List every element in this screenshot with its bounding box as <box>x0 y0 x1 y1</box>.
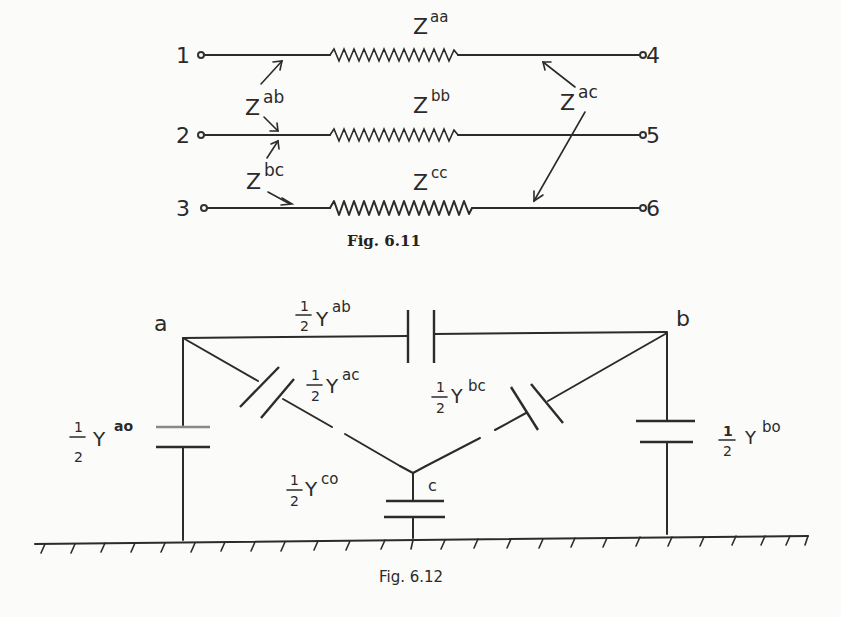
svg-text:bo: bo <box>762 418 781 436</box>
figure-caption: Fig. 6.11 <box>347 232 421 250</box>
resistor-zbb <box>330 129 458 141</box>
svg-text:Y: Y <box>325 374 339 398</box>
label-yco: 1 2 Y co <box>287 470 338 509</box>
svg-text:Z: Z <box>246 169 261 194</box>
svg-text:1: 1 <box>436 379 445 395</box>
svg-text:ab: ab <box>263 87 284 107</box>
svg-text:Y: Y <box>450 385 463 407</box>
capacitor-ao <box>156 338 210 540</box>
diagram-page: 1 2 3 4 5 6 Z aa Z bb Z cc Z ab Z bc Z a… <box>0 0 841 617</box>
terminal-2-label: 2 <box>176 123 190 148</box>
svg-text:2: 2 <box>311 388 320 404</box>
svg-text:Z: Z <box>413 170 428 195</box>
svg-text:1: 1 <box>74 419 83 435</box>
line-1 <box>198 49 646 61</box>
svg-text:Z: Z <box>560 90 575 115</box>
line-2 <box>198 129 646 141</box>
svg-text:Y: Y <box>304 477 318 501</box>
terminal-5-label: 5 <box>646 123 660 148</box>
capacitor-ab <box>183 310 667 363</box>
svg-text:2: 2 <box>74 449 83 465</box>
svg-text:ac: ac <box>342 366 359 384</box>
node-c-label: c <box>428 476 437 495</box>
svg-text:2: 2 <box>436 400 445 416</box>
terminal-1-dot <box>198 52 204 58</box>
svg-text:2: 2 <box>290 493 299 509</box>
label-zaa: Z aa <box>413 8 448 39</box>
figure-6-12: a b c <box>35 298 808 586</box>
label-zac: Z ac <box>560 82 598 115</box>
terminal-3-dot <box>201 205 207 211</box>
svg-text:bc: bc <box>264 160 284 180</box>
svg-text:Y: Y <box>744 427 757 448</box>
capacitor-bo <box>636 333 695 534</box>
svg-text:1: 1 <box>290 472 299 488</box>
label-yac: 1 2 Y ac <box>307 366 359 404</box>
svg-text:ao: ao <box>114 418 133 434</box>
svg-text:cc: cc <box>431 164 448 182</box>
svg-text:bb: bb <box>431 87 450 105</box>
svg-text:2: 2 <box>723 443 732 459</box>
svg-text:2: 2 <box>300 318 309 334</box>
svg-text:Z: Z <box>413 93 428 118</box>
label-zbc: Z bc <box>246 160 284 194</box>
resistor-zaa <box>330 49 458 61</box>
svg-text:co: co <box>321 470 338 488</box>
terminal-6-label: 6 <box>646 196 660 221</box>
line-3 <box>201 201 646 215</box>
svg-text:bc: bc <box>468 377 486 395</box>
terminal-2-dot <box>198 132 204 138</box>
label-ybo: 1 2 Y bo <box>719 418 781 459</box>
label-zbb: Z bb <box>413 87 450 118</box>
svg-text:1: 1 <box>723 423 733 439</box>
svg-text:1: 1 <box>311 367 320 383</box>
svg-text:Y: Y <box>92 427 106 451</box>
label-ybc: 1 2 Y bc <box>432 377 486 416</box>
terminal-4-label: 4 <box>646 43 660 68</box>
label-zcc: Z cc <box>413 164 448 195</box>
terminal-1-label: 1 <box>176 43 190 68</box>
svg-text:Z: Z <box>245 95 260 120</box>
node-a-label: a <box>154 311 167 336</box>
label-yao: 1 2 Y ao <box>70 418 133 465</box>
node-b-label: b <box>676 306 690 331</box>
svg-text:ab: ab <box>332 298 351 316</box>
ground-line <box>35 536 808 553</box>
figure-6-11: 1 2 3 4 5 6 Z aa Z bb Z cc Z ab Z bc Z a… <box>176 8 660 250</box>
svg-text:Z: Z <box>413 14 428 39</box>
circuit-diagrams: 1 2 3 4 5 6 Z aa Z bb Z cc Z ab Z bc Z a… <box>0 0 841 617</box>
svg-text:Y: Y <box>315 307 329 331</box>
label-yab: 1 2 Y ab <box>296 298 351 334</box>
capacitor-ac <box>183 338 413 473</box>
svg-text:1: 1 <box>300 298 309 314</box>
terminal-3-label: 3 <box>176 196 190 221</box>
label-zab: Z ab <box>245 87 284 120</box>
resistor-zcc <box>330 201 472 215</box>
svg-text:ac: ac <box>578 82 598 102</box>
svg-text:aa: aa <box>430 8 448 26</box>
figure-caption: Fig. 6.12 <box>379 568 443 586</box>
